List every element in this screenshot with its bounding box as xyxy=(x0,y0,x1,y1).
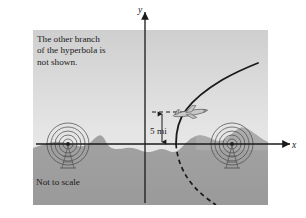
other-branch-note: The other branch of the hyperbola is not… xyxy=(37,34,145,68)
figure-container: The other branch of the hyperbola is not… xyxy=(0,0,306,218)
not-to-scale-note: Not to scale xyxy=(36,177,80,187)
y-axis-label: y xyxy=(138,4,142,15)
note-line-1: The other branch xyxy=(37,34,145,45)
distance-label: 5 mi xyxy=(150,126,167,136)
note-line-3: not shown. xyxy=(37,57,145,68)
x-axis-label: x xyxy=(292,139,296,150)
note-line-2: of the hyperbola is xyxy=(37,45,145,56)
